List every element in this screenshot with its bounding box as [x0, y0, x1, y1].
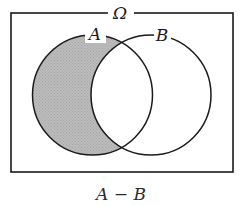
set-b-label: B: [155, 25, 169, 45]
venn-diagram-figure: Ω A B A − B: [0, 0, 243, 206]
venn-diagram-canvas: Ω A B A − B: [0, 0, 243, 206]
shaded-region-a-minus-b: [0, 0, 243, 206]
figure-caption: A − B: [94, 184, 146, 204]
set-a-label: A: [87, 24, 101, 44]
universe-label-omega: Ω: [112, 3, 127, 23]
